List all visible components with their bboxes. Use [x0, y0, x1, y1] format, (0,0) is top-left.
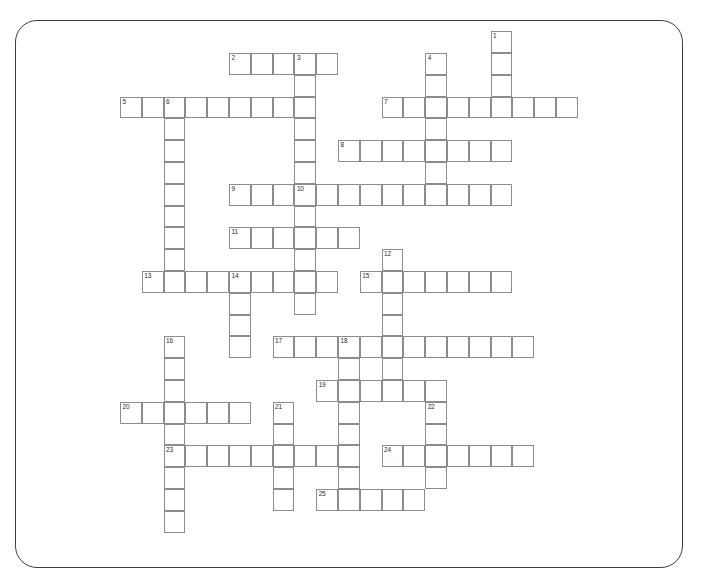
crossword-cell[interactable]: [316, 271, 338, 293]
crossword-cell[interactable]: [382, 489, 404, 511]
crossword-cell[interactable]: [294, 140, 316, 162]
crossword-cell[interactable]: [382, 315, 404, 337]
crossword-cell-start[interactable]: 19: [316, 380, 338, 402]
crossword-cell[interactable]: [338, 467, 360, 489]
crossword-cell[interactable]: [164, 118, 186, 140]
crossword-cell[interactable]: [534, 97, 556, 119]
crossword-cell[interactable]: [403, 140, 425, 162]
crossword-cell[interactable]: [447, 445, 469, 467]
crossword-cell[interactable]: [229, 293, 251, 315]
crossword-cell[interactable]: [512, 97, 534, 119]
crossword-cell-start[interactable]: 20: [120, 402, 142, 424]
crossword-cell[interactable]: [185, 445, 207, 467]
crossword-cell[interactable]: [469, 445, 491, 467]
crossword-cell[interactable]: [447, 336, 469, 358]
crossword-cell[interactable]: [469, 336, 491, 358]
crossword-cell[interactable]: [425, 184, 447, 206]
crossword-cell[interactable]: [185, 271, 207, 293]
crossword-cell[interactable]: [338, 445, 360, 467]
crossword-cell-start[interactable]: 9: [229, 184, 251, 206]
crossword-cell[interactable]: [338, 489, 360, 511]
crossword-cell[interactable]: [491, 336, 513, 358]
crossword-cell[interactable]: [273, 271, 295, 293]
crossword-cell[interactable]: [469, 140, 491, 162]
crossword-cell[interactable]: [273, 53, 295, 75]
crossword-cell[interactable]: [251, 97, 273, 119]
crossword-cell[interactable]: [338, 227, 360, 249]
crossword-cell-start[interactable]: 14: [229, 271, 251, 293]
crossword-cell[interactable]: [207, 271, 229, 293]
crossword-cell[interactable]: [294, 249, 316, 271]
crossword-cell[interactable]: [273, 489, 295, 511]
crossword-cell[interactable]: [360, 184, 382, 206]
crossword-cell[interactable]: [164, 489, 186, 511]
crossword-cell[interactable]: [142, 97, 164, 119]
crossword-cell-start[interactable]: 3: [294, 53, 316, 75]
crossword-cell[interactable]: [425, 162, 447, 184]
crossword-cell[interactable]: [338, 402, 360, 424]
crossword-cell[interactable]: [294, 227, 316, 249]
crossword-cell[interactable]: [164, 271, 186, 293]
crossword-cell[interactable]: [382, 380, 404, 402]
crossword-cell[interactable]: [425, 380, 447, 402]
crossword-cell[interactable]: [294, 75, 316, 97]
crossword-cell[interactable]: [491, 271, 513, 293]
crossword-cell[interactable]: [338, 184, 360, 206]
crossword-cell[interactable]: [294, 293, 316, 315]
crossword-cell[interactable]: [251, 53, 273, 75]
crossword-cell[interactable]: [556, 97, 578, 119]
crossword-cell[interactable]: [447, 140, 469, 162]
crossword-cell[interactable]: [360, 140, 382, 162]
crossword-cell[interactable]: [185, 402, 207, 424]
crossword-cell-start[interactable]: 16: [164, 336, 186, 358]
crossword-cell-start[interactable]: 7: [382, 97, 404, 119]
crossword-cell[interactable]: [382, 184, 404, 206]
crossword-cell[interactable]: [512, 336, 534, 358]
crossword-cell[interactable]: [229, 445, 251, 467]
crossword-cell[interactable]: [164, 227, 186, 249]
crossword-cell[interactable]: [229, 336, 251, 358]
crossword-cell-start[interactable]: 4: [425, 53, 447, 75]
crossword-cell[interactable]: [469, 271, 491, 293]
crossword-cell[interactable]: [229, 97, 251, 119]
crossword-cell[interactable]: [469, 184, 491, 206]
crossword-cell-start[interactable]: 18: [338, 336, 360, 358]
crossword-cell-start[interactable]: 22: [425, 402, 447, 424]
crossword-cell[interactable]: [251, 227, 273, 249]
crossword-cell[interactable]: [425, 445, 447, 467]
crossword-cell[interactable]: [425, 140, 447, 162]
crossword-cell[interactable]: [316, 227, 338, 249]
crossword-cell-start[interactable]: 1: [491, 31, 513, 53]
crossword-cell[interactable]: [316, 336, 338, 358]
crossword-cell[interactable]: [403, 336, 425, 358]
crossword-cell[interactable]: [164, 249, 186, 271]
crossword-cell[interactable]: [164, 184, 186, 206]
crossword-cell[interactable]: [512, 445, 534, 467]
crossword-cell[interactable]: [425, 75, 447, 97]
crossword-cell[interactable]: [294, 97, 316, 119]
crossword-cell[interactable]: [229, 315, 251, 337]
crossword-cell[interactable]: [164, 162, 186, 184]
crossword-cell-start[interactable]: 8: [338, 140, 360, 162]
crossword-cell[interactable]: [382, 336, 404, 358]
crossword-cell[interactable]: [273, 424, 295, 446]
crossword-cell[interactable]: [164, 206, 186, 228]
crossword-cell-start[interactable]: 15: [360, 271, 382, 293]
crossword-cell[interactable]: [164, 467, 186, 489]
crossword-cell[interactable]: [425, 467, 447, 489]
crossword-cell[interactable]: [403, 489, 425, 511]
crossword-cell[interactable]: [164, 402, 186, 424]
crossword-cell[interactable]: [382, 293, 404, 315]
crossword-cell[interactable]: [491, 75, 513, 97]
crossword-cell[interactable]: [164, 424, 186, 446]
crossword-cell[interactable]: [338, 424, 360, 446]
crossword-cell[interactable]: [273, 445, 295, 467]
crossword-cell-start[interactable]: 11: [229, 227, 251, 249]
crossword-cell[interactable]: [294, 445, 316, 467]
crossword-cell[interactable]: [185, 97, 207, 119]
crossword-cell-start[interactable]: 12: [382, 249, 404, 271]
crossword-cell[interactable]: [142, 402, 164, 424]
crossword-cell[interactable]: [382, 358, 404, 380]
crossword-cell[interactable]: [491, 97, 513, 119]
